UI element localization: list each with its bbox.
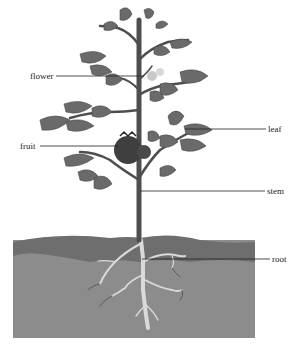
- label-leaf: leaf: [268, 124, 282, 134]
- label-fruit: fruit: [20, 141, 36, 151]
- label-stem: stem: [267, 186, 284, 196]
- label-flower: flower: [30, 71, 54, 81]
- plant-illustration: [0, 0, 303, 360]
- plant-diagram: flower fruit leaf stem root: [0, 0, 303, 360]
- soil: [13, 235, 255, 338]
- label-root: root: [272, 254, 287, 264]
- fruit: [114, 132, 151, 164]
